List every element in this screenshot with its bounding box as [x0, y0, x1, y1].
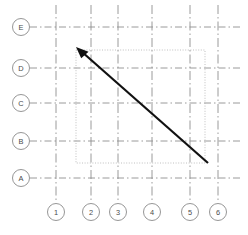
dotted-boundary — [76, 50, 205, 163]
grid-plan-svg: E D C B A 1 — [0, 0, 248, 235]
column-bubble-label-5: 5 — [188, 208, 192, 217]
row-bubble-label-A: A — [19, 174, 24, 183]
row-bubble-label-B: B — [19, 137, 24, 146]
row-gridlines-group — [30, 27, 241, 178]
column-bubble-label-6: 6 — [216, 208, 220, 217]
column-gridlines-group — [56, 5, 218, 203]
column-bubble-label-1: 1 — [54, 208, 58, 217]
column-bubble-6[interactable]: 6 — [210, 204, 227, 221]
row-bubble-label-D: D — [18, 64, 23, 73]
row-bubble-E[interactable]: E — [13, 19, 30, 36]
row-bubble-B[interactable]: B — [13, 133, 30, 150]
column-bubble-label-3: 3 — [116, 208, 120, 217]
column-bubble-label-2: 2 — [89, 208, 93, 217]
row-bubble-label-E: E — [19, 23, 24, 32]
row-bubble-A[interactable]: A — [13, 170, 30, 187]
column-bubble-5[interactable]: 5 — [182, 204, 199, 221]
column-bubble-2[interactable]: 2 — [83, 204, 100, 221]
row-bubbles-group: E D C B A — [13, 19, 30, 187]
drawing-canvas: E D C B A 1 — [0, 0, 248, 235]
column-bubbles-group: 1 2 3 4 5 6 — [48, 204, 227, 221]
column-bubble-4[interactable]: 4 — [144, 204, 161, 221]
column-bubble-label-4: 4 — [150, 208, 154, 217]
column-bubble-3[interactable]: 3 — [110, 204, 127, 221]
leader-arrow — [76, 47, 208, 163]
row-bubble-D[interactable]: D — [13, 60, 30, 77]
row-bubble-C[interactable]: C — [13, 95, 30, 112]
leader-arrow-shaft — [82, 52, 209, 164]
column-bubble-1[interactable]: 1 — [48, 204, 65, 221]
row-bubble-label-C: C — [18, 99, 24, 108]
